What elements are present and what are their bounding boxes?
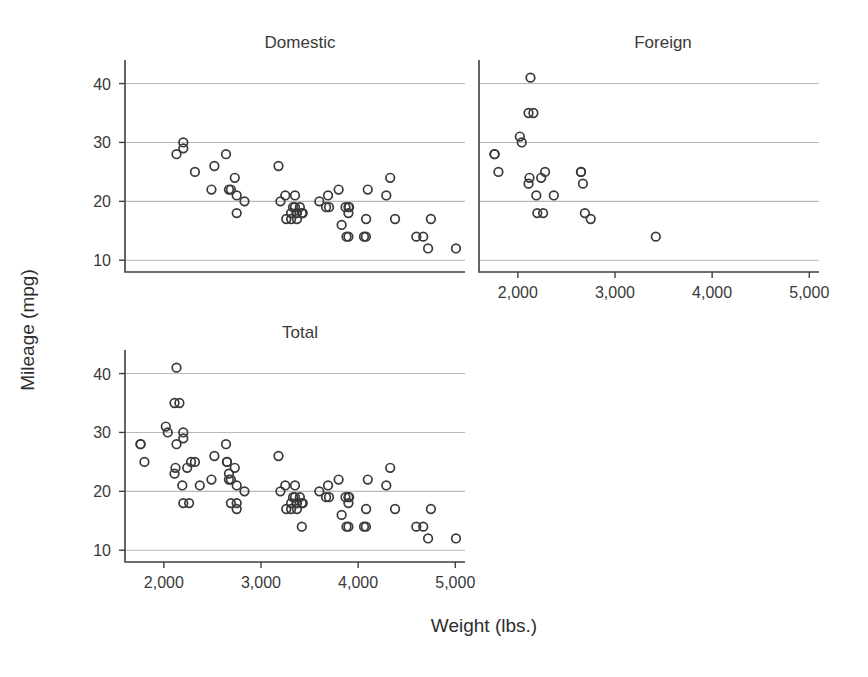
y-tick-label: 20	[93, 193, 111, 210]
data-point	[363, 185, 372, 194]
y-tick-label: 30	[93, 424, 111, 441]
data-point	[490, 150, 499, 159]
scatter-plot-matrix: Mileage (mpg) Weight (lbs.) Domestic 102…	[0, 0, 868, 677]
panel-total-points	[136, 363, 460, 542]
y-tick-label: 20	[93, 483, 111, 500]
x-tick-label: 4,000	[692, 284, 732, 301]
data-point	[210, 162, 219, 171]
data-point	[324, 481, 333, 490]
data-point	[391, 215, 400, 224]
data-point	[207, 185, 216, 194]
data-point	[232, 209, 241, 218]
data-point	[274, 162, 283, 171]
data-point	[532, 191, 541, 200]
data-point	[337, 511, 346, 520]
panel-foreign-xtickmarks	[518, 272, 809, 278]
data-point	[424, 534, 433, 543]
data-point	[222, 150, 231, 159]
data-point	[140, 458, 149, 467]
panel-total-tickmarks	[119, 374, 125, 551]
data-point	[386, 173, 395, 182]
panel-domestic: Domestic 10203040	[93, 33, 465, 272]
y-tick-label: 40	[93, 76, 111, 93]
panel-foreign-axes	[479, 60, 819, 272]
data-point	[652, 232, 661, 241]
data-point	[382, 191, 391, 200]
data-point	[223, 458, 232, 467]
data-point	[185, 499, 194, 508]
panel-total-yticklabels: 10203040	[93, 366, 111, 560]
data-point	[291, 191, 300, 200]
panel-foreign: Foreign 2,0003,0004,0005,000	[479, 33, 829, 301]
data-point	[525, 173, 534, 182]
y-tick-label: 40	[93, 366, 111, 383]
data-point	[291, 481, 300, 490]
data-point	[579, 179, 588, 188]
x-tick-label: 4,000	[338, 574, 378, 591]
panel-total-xtickmarks	[164, 562, 455, 568]
data-point	[577, 168, 586, 177]
data-point	[427, 215, 436, 224]
data-point	[222, 440, 231, 449]
data-point	[281, 481, 290, 490]
data-point	[550, 191, 559, 200]
y-axis-title: Mileage (mpg)	[17, 269, 38, 390]
data-point	[298, 522, 307, 531]
data-point	[382, 481, 391, 490]
x-tick-label: 3,000	[241, 574, 281, 591]
data-point	[227, 499, 236, 508]
data-point	[281, 191, 290, 200]
panel-total: Total 10203040 2,0003,0004,0005,000	[93, 323, 475, 591]
data-point	[171, 463, 180, 472]
panel-domestic-yticklabels: 10203040	[93, 76, 111, 270]
data-point	[179, 144, 188, 153]
x-tick-label: 5,000	[789, 284, 829, 301]
data-point	[526, 73, 535, 82]
data-point	[274, 452, 283, 461]
data-point	[324, 191, 333, 200]
data-point	[191, 168, 200, 177]
panel-foreign-title: Foreign	[634, 33, 692, 52]
data-point	[337, 221, 346, 230]
panel-domestic-tickmarks	[119, 84, 125, 261]
data-point	[334, 475, 343, 484]
y-tick-label: 30	[93, 134, 111, 151]
y-tick-label: 10	[93, 252, 111, 269]
data-point	[386, 463, 395, 472]
data-point	[581, 209, 590, 218]
data-point	[424, 244, 433, 253]
data-point	[210, 452, 219, 461]
panel-total-title: Total	[282, 323, 318, 342]
data-point	[427, 505, 436, 514]
data-point	[391, 505, 400, 514]
x-tick-label: 2,000	[144, 574, 184, 591]
data-point	[494, 168, 503, 177]
panel-total-xticklabels: 2,0003,0004,0005,000	[144, 574, 476, 591]
data-point	[179, 434, 188, 443]
data-point	[362, 505, 371, 514]
data-point	[363, 475, 372, 484]
panel-foreign-points	[490, 73, 660, 241]
data-point	[334, 185, 343, 194]
x-axis-title: Weight (lbs.)	[431, 615, 537, 636]
data-point	[232, 481, 241, 490]
panel-foreign-xticklabels: 2,0003,0004,0005,000	[498, 284, 830, 301]
data-point	[539, 209, 548, 218]
data-point	[136, 440, 145, 449]
x-tick-label: 3,000	[595, 284, 635, 301]
y-tick-label: 10	[93, 542, 111, 559]
data-point	[207, 475, 216, 484]
data-point	[362, 215, 371, 224]
data-point	[196, 481, 205, 490]
data-point	[232, 191, 241, 200]
panel-domestic-title: Domestic	[265, 33, 336, 52]
x-tick-label: 5,000	[435, 574, 475, 591]
x-tick-label: 2,000	[498, 284, 538, 301]
panel-domestic-points	[172, 138, 460, 253]
data-point	[452, 244, 461, 253]
data-point	[452, 534, 461, 543]
data-point	[178, 481, 187, 490]
data-point	[230, 173, 239, 182]
data-point	[172, 363, 181, 372]
